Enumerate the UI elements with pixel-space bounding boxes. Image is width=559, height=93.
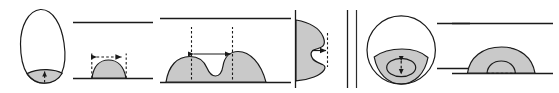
panel-6-cap-inner-arc	[452, 24, 553, 74]
panel-1-elongated-drop	[21, 9, 65, 83]
figure-canvas	[0, 0, 559, 93]
drop-cap	[468, 47, 536, 73]
panel-4-wall-drop	[296, 10, 348, 88]
drop-body	[166, 52, 266, 83]
drop-cap	[92, 60, 126, 78]
figure-root	[0, 0, 559, 93]
panel-3-notched-drop	[160, 19, 291, 83]
panel-2-sessile-cap	[73, 23, 153, 79]
